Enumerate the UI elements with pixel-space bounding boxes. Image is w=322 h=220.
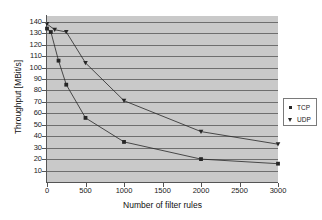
data-point-udp — [122, 99, 127, 103]
y-tick-mark — [42, 159, 47, 160]
data-point-tcp — [199, 157, 203, 161]
y-tick-mark — [42, 148, 47, 149]
legend-label-udp: UDP — [297, 116, 311, 123]
series-line-tcp — [47, 29, 278, 164]
data-point-tcp — [57, 59, 61, 63]
y-tick-mark — [42, 90, 47, 91]
y-tick-mark — [42, 136, 47, 137]
legend-item-udp[interactable]: UDP — [286, 113, 314, 125]
square-marker-icon — [286, 103, 295, 112]
y-tick-mark — [42, 113, 47, 114]
y-tick-mark — [42, 56, 47, 57]
data-point-tcp — [84, 116, 88, 120]
data-point-tcp — [276, 162, 280, 166]
y-axis-title: Throughput [MBit/s] — [13, 27, 23, 167]
y-tick-mark — [42, 125, 47, 126]
data-series-layer — [0, 0, 322, 220]
data-point-tcp — [45, 27, 49, 31]
legend-item-tcp[interactable]: TCP — [286, 101, 314, 113]
y-tick-mark — [42, 102, 47, 103]
data-point-tcp — [122, 140, 126, 144]
y-tick-mark — [42, 68, 47, 69]
y-tick-mark — [42, 79, 47, 80]
x-axis-title: Number of filter rules — [47, 200, 278, 210]
data-point-tcp — [49, 30, 53, 34]
data-point-tcp — [64, 83, 68, 87]
triangle-marker-icon — [286, 115, 295, 124]
series-line-udp — [47, 24, 278, 144]
legend-label-tcp: TCP — [297, 104, 310, 111]
data-point-udp — [64, 30, 69, 34]
y-tick-mark — [42, 171, 47, 172]
data-point-udp — [276, 142, 281, 146]
y-tick-mark — [42, 33, 47, 34]
chart-figure: 102030405060708090100110120130140 050010… — [0, 0, 322, 220]
y-tick-mark — [42, 45, 47, 46]
y-tick-mark — [42, 22, 47, 23]
legend-box: TCP UDP — [283, 98, 317, 126]
